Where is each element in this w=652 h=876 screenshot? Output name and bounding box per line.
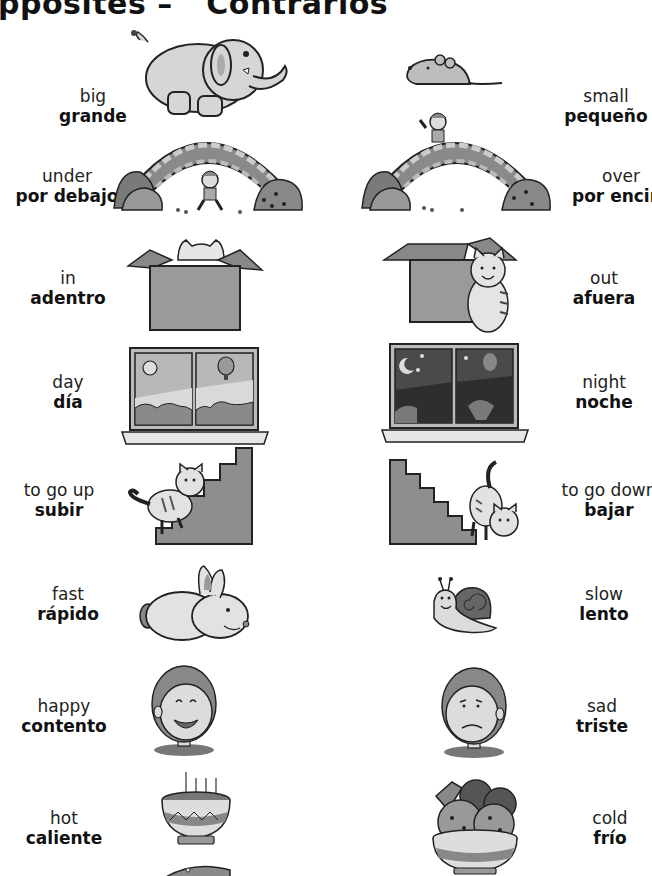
word-pair-fast: fast rápido: [18, 584, 118, 625]
boy-over-bridge-icon: [362, 108, 552, 218]
spanish-word: adentro: [18, 288, 118, 309]
happy-boy-icon: [146, 662, 222, 754]
word-pair-night: night noche: [554, 372, 652, 413]
word-pair-happy: happy contento: [14, 696, 114, 737]
word-pair-out: out afuera: [554, 268, 652, 309]
spanish-word: frío: [560, 828, 652, 849]
english-word: out: [554, 268, 652, 288]
cat-descending-stairs-icon: [390, 460, 522, 546]
english-word: slow: [554, 584, 652, 604]
mouse-icon: [408, 54, 503, 94]
english-word: fast: [18, 584, 118, 604]
spanish-word: caliente: [14, 828, 114, 849]
english-word: sad: [552, 696, 652, 716]
english-word: hot: [14, 808, 114, 828]
spanish-word: día: [18, 392, 118, 413]
english-word: day: [18, 372, 118, 392]
word-pair-in: in adentro: [18, 268, 118, 309]
spanish-word: rápido: [18, 604, 118, 625]
word-pair-cold: cold frío: [560, 808, 652, 849]
word-pair-sad: sad triste: [552, 696, 652, 737]
sad-boy-icon: [436, 666, 512, 758]
cat-in-box-icon: [128, 236, 262, 332]
english-word: to go down: [554, 480, 652, 500]
spanish-word: bajar: [554, 500, 652, 521]
title-english: pposites: [0, 0, 146, 21]
spanish-word: por encim: [572, 186, 652, 207]
hot-soup-bowl-icon: [160, 772, 232, 848]
word-pair-to-go-up: to go up subir: [4, 480, 114, 521]
word-pair-day: day día: [18, 372, 118, 413]
rabbit-icon: [140, 564, 254, 650]
spanish-word: afuera: [554, 288, 652, 309]
word-pair-under: under por debajo: [2, 166, 132, 207]
spanish-word: pequeño: [556, 106, 652, 127]
page-title: pposites – Contrarios: [0, 0, 388, 21]
spanish-word: contento: [14, 716, 114, 737]
spanish-word: triste: [552, 716, 652, 737]
english-word: cold: [560, 808, 652, 828]
word-pair-slow: slow lento: [554, 584, 652, 625]
elephant-icon: [128, 30, 288, 120]
ice-cream-bowl-icon: [430, 778, 520, 876]
word-pair-over: over por encim: [572, 166, 652, 207]
partial-next-picture-icon: [164, 864, 244, 876]
night-window-icon: [382, 344, 528, 444]
title-spanish: Contrarios: [206, 0, 388, 21]
english-word: over: [572, 166, 652, 186]
title-separator: –: [146, 0, 206, 21]
english-word: to go up: [4, 480, 114, 500]
english-word: night: [554, 372, 652, 392]
english-word: under: [2, 166, 132, 186]
cat-out-of-box-icon: [384, 232, 510, 334]
word-pair-hot: hot caliente: [14, 808, 114, 849]
spanish-word: lento: [554, 604, 652, 625]
english-word: small: [556, 86, 652, 106]
english-word: happy: [14, 696, 114, 716]
day-window-icon: [122, 348, 268, 446]
spanish-word: por debajo: [2, 186, 132, 207]
spanish-word: noche: [554, 392, 652, 413]
word-pair-small: small pequeño: [556, 86, 652, 127]
spanish-word: subir: [4, 500, 114, 521]
english-word: in: [18, 268, 118, 288]
snail-icon: [432, 576, 498, 638]
boy-under-bridge-icon: [114, 138, 304, 218]
cat-climbing-stairs-icon: [128, 458, 256, 550]
word-pair-to-go-down: to go down bajar: [554, 480, 652, 521]
